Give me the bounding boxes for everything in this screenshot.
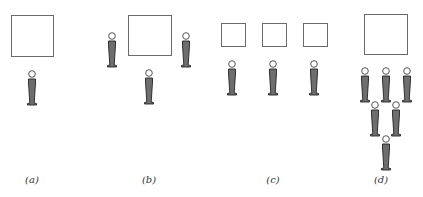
- panel-label: (b): [142, 174, 156, 185]
- person-figure: [307, 60, 321, 98]
- panel-label: (c): [266, 174, 279, 185]
- person-icon: [225, 60, 239, 98]
- person-figure: [266, 60, 280, 98]
- person-figure: [389, 101, 403, 139]
- person-figure: [105, 32, 119, 70]
- person-icon: [307, 60, 321, 98]
- person-figure: [225, 60, 239, 98]
- person-figure: [379, 135, 393, 173]
- person-icon: [379, 135, 393, 173]
- screen-box: [303, 23, 328, 47]
- panel-label: (d): [374, 174, 388, 185]
- person-icon: [142, 69, 156, 107]
- person-figure: [142, 69, 156, 107]
- person-figure: [400, 67, 414, 105]
- person-icon: [25, 70, 39, 108]
- screen-box: [262, 23, 287, 47]
- figure-stage: (a) (b) (c): [0, 0, 423, 197]
- person-icon: [379, 67, 393, 105]
- panel-label: (a): [25, 174, 39, 185]
- person-icon: [105, 32, 119, 70]
- person-icon: [400, 67, 414, 105]
- person-figure: [25, 70, 39, 108]
- person-icon: [358, 67, 372, 105]
- person-icon: [368, 101, 382, 139]
- screen-box: [221, 23, 246, 47]
- person-icon: [389, 101, 403, 139]
- person-icon: [266, 60, 280, 98]
- person-figure: [368, 101, 382, 139]
- person-figure: [379, 67, 393, 105]
- person-figure: [358, 67, 372, 105]
- screen-box: [364, 14, 408, 55]
- screen-box: [128, 15, 172, 56]
- person-figure: [179, 32, 193, 70]
- person-icon: [179, 32, 193, 70]
- screen-box: [11, 15, 54, 57]
